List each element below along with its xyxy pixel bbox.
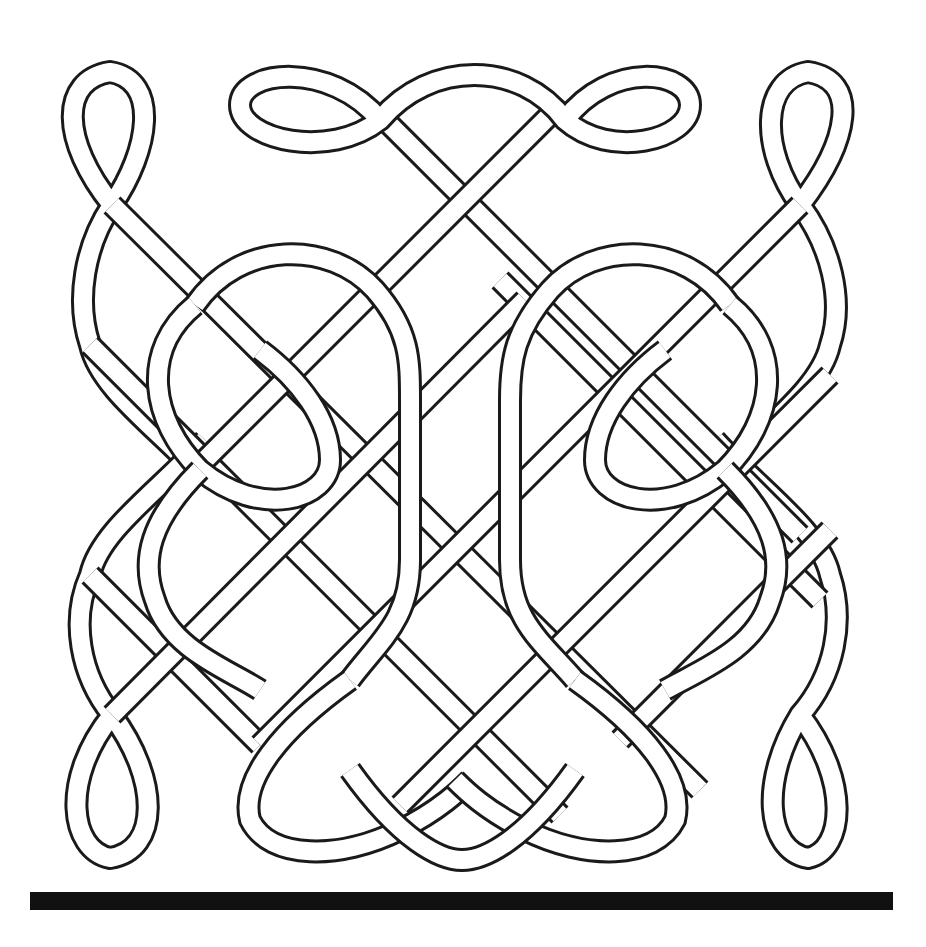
- base-bar: [30, 892, 893, 910]
- celtic-knot-svg: [0, 0, 926, 947]
- top-wave: [240, 75, 690, 142]
